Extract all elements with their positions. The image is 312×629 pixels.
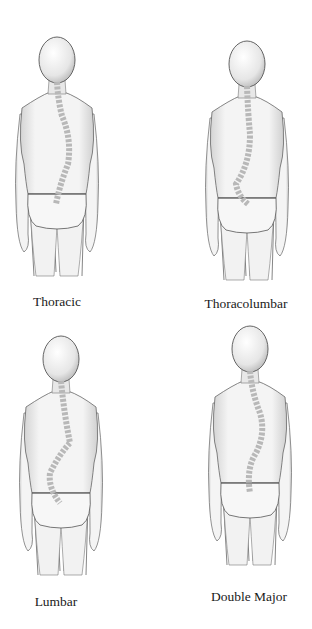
panel-thoracic: Thoracic [0, 0, 156, 315]
label-double-major: Double Major [211, 589, 287, 605]
panel-lumbar: Lumbar [0, 315, 156, 629]
figure-thoracic [0, 4, 156, 294]
panel-double-major: Double Major [156, 315, 312, 629]
figure-lumbar [0, 303, 156, 593]
figure-thoracolumbar [156, 4, 312, 294]
figure-double-major [156, 293, 312, 583]
panel-thoracolumbar: Thoracolumbar [156, 0, 312, 315]
label-lumbar: Lumbar [35, 594, 78, 610]
